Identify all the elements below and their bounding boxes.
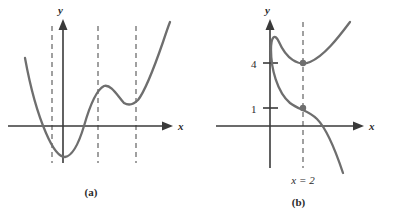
x-axis-label-a: x <box>177 120 184 132</box>
intersection-dot-y1 <box>300 105 306 111</box>
y-axis-arrowhead-a <box>59 19 68 30</box>
y-tick-label-1: 1 <box>251 103 257 115</box>
y-axis-label-a: y <box>56 4 63 16</box>
panel-a-plot: x y <box>0 0 198 190</box>
curve-b <box>271 22 350 173</box>
x-axis-label-b: x <box>368 120 375 132</box>
y-axis-label-b: y <box>263 4 270 16</box>
y-axis-a <box>59 19 68 163</box>
panel-b-plot: 4 1 x y x = 2 <box>198 0 395 200</box>
panel-a: x y (a) <box>0 0 198 219</box>
y-axis-b <box>266 19 275 168</box>
vertical-test-lines-a <box>52 26 136 163</box>
intersection-dot-y4 <box>300 60 306 66</box>
x-axis-a <box>8 122 173 131</box>
x-axis-arrowhead-b <box>353 122 364 131</box>
panel-b-caption: (b) <box>200 196 395 208</box>
figure-container: x y (a) <box>0 0 395 219</box>
x-axis-arrowhead-a <box>162 122 173 131</box>
y-axis-arrowhead-b <box>266 19 275 30</box>
y-tick-label-4: 4 <box>251 58 257 70</box>
x-axis-b <box>216 122 364 131</box>
vertical-line-equation-label: x = 2 <box>290 174 315 186</box>
panel-a-caption: (a) <box>0 186 190 198</box>
panel-b: 4 1 x y x = 2 (b) <box>198 0 395 219</box>
